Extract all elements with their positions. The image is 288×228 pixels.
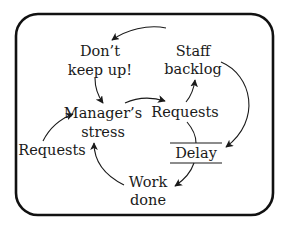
node-staff-backlog-line2: backlog: [164, 61, 221, 77]
node-dont-keep-up-line2: keep up!: [68, 62, 132, 78]
arrow-staff-backlog-to-dont-keep-up: [112, 27, 166, 40]
causal-loop-diagram: Don’t keep up! Staff backlog Manager’s s…: [0, 0, 288, 228]
node-requests-left: Requests: [18, 142, 85, 158]
node-work-done-line2: done: [130, 192, 166, 208]
node-staff-backlog: Staff backlog: [164, 43, 221, 77]
arrow-requests-to-staff-backlog: [186, 80, 195, 102]
node-delay-label: Delay: [175, 145, 217, 161]
node-managers-stress-line2: stress: [81, 124, 125, 140]
node-work-done-line1: Work: [129, 174, 168, 190]
node-managers-stress: Manager’s stress: [64, 105, 142, 140]
node-managers-stress-line1: Manager’s: [64, 105, 142, 121]
arrow-delay-to-work-done: [175, 163, 194, 186]
arrow-staff-backlog-to-delay: [221, 62, 249, 147]
arrow-managers-stress-to-requests: [125, 98, 165, 103]
node-work-done: Work done: [129, 174, 168, 208]
node-dont-keep-up: Don’t keep up!: [68, 43, 132, 78]
line-requests-to-delay: [187, 122, 196, 143]
node-dont-keep-up-line1: Don’t: [80, 43, 120, 59]
node-requests-right: Requests: [151, 104, 218, 120]
arrow-dont-keep-up-to-managers-stress: [95, 78, 103, 103]
arrow-work-done-to-managers-stress: [94, 143, 124, 185]
node-staff-backlog-line1: Staff: [176, 43, 212, 59]
node-delay: Delay: [170, 143, 222, 163]
